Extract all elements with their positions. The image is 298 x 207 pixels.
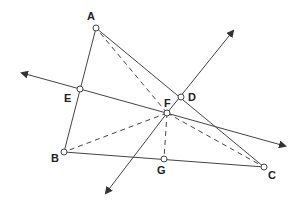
label-b: B <box>51 152 59 164</box>
geometry-diagram: A E B D F G C <box>0 0 298 207</box>
dashed-fg <box>164 113 167 159</box>
label-f: F <box>164 97 171 109</box>
label-g: G <box>157 164 166 176</box>
label-e: E <box>64 92 71 104</box>
bisector-line-df-ext <box>106 113 167 193</box>
diagram-canvas: A E B D F G C <box>0 0 298 207</box>
label-d: D <box>188 91 196 103</box>
dashed-fc <box>167 113 264 167</box>
point-f <box>164 110 170 116</box>
label-c: C <box>268 169 276 181</box>
point-b <box>61 149 67 155</box>
point-d <box>178 94 184 100</box>
point-c <box>261 164 267 170</box>
bisector-line-ef <box>22 73 80 89</box>
dashed-fa <box>96 28 167 113</box>
point-e <box>77 86 83 92</box>
point-a <box>93 25 99 31</box>
label-a: A <box>87 10 95 22</box>
point-g <box>161 156 167 162</box>
bisector-line-df <box>167 31 233 113</box>
